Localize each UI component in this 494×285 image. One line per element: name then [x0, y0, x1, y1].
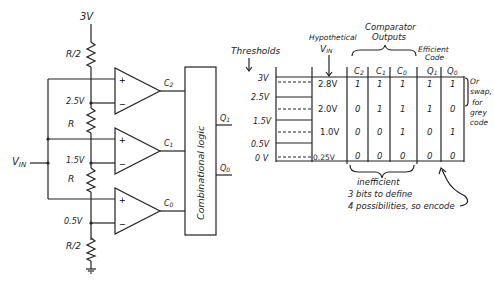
table-row: 1.0V 0 0 1 0 1 [320, 127, 455, 137]
vin-column-subtitle: VIN [320, 44, 333, 54]
comparator-c2: + − C2 [115, 68, 185, 114]
efficient-subtitle: Code [425, 53, 445, 62]
svg-text:Or: Or [470, 77, 480, 86]
svg-text:1: 1 [355, 79, 360, 89]
svg-text:1: 1 [427, 79, 432, 89]
table-row: 2.0V 0 1 1 1 0 [318, 104, 455, 114]
table-row: 2.8V 1 1 1 1 1 [318, 79, 455, 89]
ground-icon [86, 269, 96, 273]
resistor-upper-mid-label: R [68, 119, 74, 129]
svg-text:−: − [119, 160, 126, 169]
svg-text:C1: C1 [376, 66, 386, 76]
svg-text:for: for [472, 98, 483, 107]
svg-text:1: 1 [377, 104, 382, 114]
svg-text:C1: C1 [164, 139, 173, 148]
resistor-upper-mid [87, 108, 95, 133]
comparator-group-title: Comparator [365, 22, 416, 32]
node-0-5v-label: 0.5V [64, 217, 83, 226]
svg-text:C0: C0 [397, 66, 407, 76]
svg-text:1: 1 [450, 79, 455, 89]
svg-text:0: 0 [355, 104, 360, 114]
resistor-lower-mid-label: R [68, 174, 74, 184]
resistor-top [87, 42, 95, 67]
bottom-note: inefficient 3 bits to define 4 possibili… [348, 177, 455, 211]
svg-text:C0: C0 [164, 199, 174, 208]
vin-column-title: Hypothetical [309, 33, 357, 42]
svg-text:1.5V: 1.5V [253, 117, 272, 126]
svg-text:1.0V: 1.0V [320, 127, 340, 137]
side-note: Or swap, for grey code [470, 77, 492, 127]
svg-text:0: 0 [355, 151, 360, 161]
svg-text:−: − [119, 100, 126, 109]
svg-text:0.5V: 0.5V [251, 140, 270, 149]
svg-text:swap,: swap, [470, 87, 492, 96]
flash-adc-diagram: 3V R/2 2.5V R 1.5V R 0.5V R/2 [0, 0, 494, 285]
svg-text:2.5V: 2.5V [251, 93, 270, 102]
truth-table: Thresholds Hypothetical VIN Comparator O… [231, 22, 492, 211]
svg-text:−: − [119, 220, 126, 229]
svg-text:1: 1 [450, 127, 455, 137]
vin-label: VIN [12, 156, 27, 169]
svg-text:code: code [470, 118, 488, 127]
svg-text:3 bits to define: 3 bits to define [348, 189, 412, 199]
table-row: 0.25V 0 0 0 0 0 [313, 151, 455, 162]
svg-text:1: 1 [377, 79, 382, 89]
svg-text:1: 1 [400, 79, 405, 89]
output-q0-label: Q0 [220, 164, 230, 173]
resistor-bottom-label: R/2 [66, 241, 81, 251]
resistor-lower-mid [87, 168, 95, 192]
resistor-top-label: R/2 [66, 49, 81, 59]
svg-text:1: 1 [427, 104, 432, 114]
svg-text:inefficient: inefficient [357, 177, 400, 187]
svg-text:2.0V: 2.0V [318, 104, 338, 114]
svg-text:+: + [119, 196, 126, 205]
svg-text:C2: C2 [354, 66, 364, 76]
svg-text:grey: grey [470, 108, 487, 117]
svg-text:C2: C2 [164, 79, 174, 88]
logic-block-label: Combinational logic [195, 125, 206, 220]
side-note-bracket [465, 78, 468, 106]
node-2-5v-label: 2.5V [66, 97, 85, 106]
svg-text:0 V: 0 V [255, 154, 269, 163]
svg-text:1: 1 [400, 127, 405, 137]
circuit: 3V R/2 2.5V R 1.5V R 0.5V R/2 [12, 11, 232, 273]
supply-label: 3V [80, 11, 94, 22]
svg-text:0.25V: 0.25V [313, 153, 336, 162]
comparator-c1: + − C1 [115, 128, 185, 174]
comparator-c0: + − C0 [115, 188, 185, 234]
resistor-bottom [87, 238, 95, 261]
svg-text:0: 0 [377, 151, 382, 161]
svg-text:0: 0 [450, 104, 455, 114]
svg-text:+: + [119, 136, 126, 145]
svg-text:0: 0 [400, 151, 405, 161]
output-q1-label: Q1 [220, 114, 230, 123]
svg-text:4 possibilities, so encode: 4 possibilities, so encode [348, 201, 455, 211]
svg-text:0: 0 [427, 151, 432, 161]
svg-text:0: 0 [450, 151, 455, 161]
svg-text:3V: 3V [258, 74, 269, 83]
combinational-logic-block: Combinational logic [185, 67, 216, 235]
svg-text:2.8V: 2.8V [318, 79, 338, 89]
svg-text:Q1: Q1 [427, 66, 438, 76]
svg-text:0: 0 [377, 127, 382, 137]
comparator-group-subtitle: Outputs [372, 32, 407, 42]
thresholds-title: Thresholds [231, 46, 281, 56]
node-1-5v-label: 1.5V [66, 156, 85, 165]
svg-text:1: 1 [400, 104, 405, 114]
svg-text:Q0: Q0 [447, 66, 458, 76]
svg-text:0: 0 [427, 127, 432, 137]
comparator-brace [352, 45, 416, 56]
svg-text:+: + [119, 76, 126, 85]
svg-text:0: 0 [355, 127, 360, 137]
